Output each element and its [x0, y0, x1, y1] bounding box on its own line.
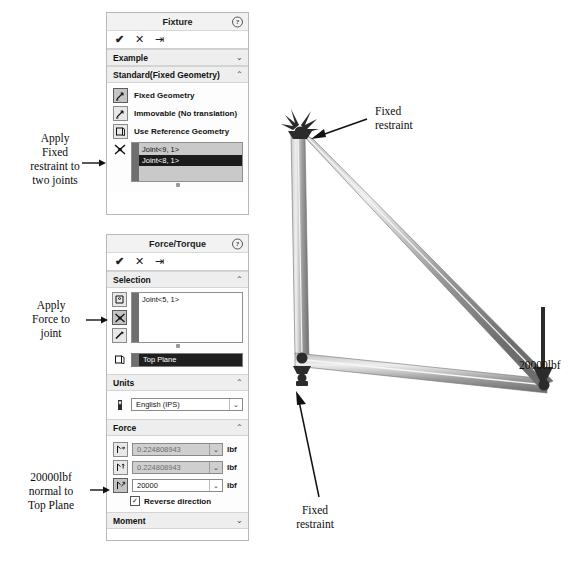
chevron-down-icon[interactable]: ⌄ — [229, 399, 242, 410]
cancel-button[interactable]: ✕ — [135, 34, 144, 45]
chevron-up-icon[interactable]: ⌃ — [236, 275, 243, 284]
ok-button[interactable]: ✔ — [115, 34, 124, 45]
arrow-to-bottom-restraint — [292, 385, 328, 500]
reverse-direction-row[interactable]: ✓ Reverse direction — [130, 496, 243, 506]
chevron-up-icon[interactable]: ⌃ — [236, 70, 243, 79]
beam-bottom — [295, 353, 547, 393]
chevron-down-icon[interactable]: ⌄ — [209, 444, 222, 455]
pin-button[interactable]: ⇥ — [155, 34, 164, 45]
arrow-to-force-value — [90, 484, 112, 496]
moment-section-header[interactable]: Moment ⌄ — [107, 512, 248, 529]
option-reference-geometry-label: Use Reference Geometry — [134, 127, 229, 136]
fixture-panel-title: Fixture ? — [107, 13, 248, 31]
fixture-toolbar: ✔ ✕ ⇥ — [107, 31, 248, 49]
reference-geometry-icon[interactable] — [113, 124, 128, 139]
beam-select-icon[interactable] — [112, 328, 127, 343]
force-y-row: 0.224808943 ⌄ lbf — [113, 460, 243, 475]
fixture-entity-items: Joint<9, 1> Joint<8, 1> — [139, 143, 242, 181]
annotation-line: two joints — [14, 173, 96, 187]
annotation-line: Top Plane — [8, 498, 94, 512]
chevron-down-icon[interactable]: ⌄ — [236, 516, 243, 525]
selection-section-header[interactable]: Selection ⌃ — [107, 271, 248, 288]
force-x-row: 0.224808943 ⌄ lbf — [113, 442, 243, 457]
force-entity-list[interactable]: Joint<5, 1> — [131, 292, 243, 343]
list-item[interactable]: Joint<9, 1> — [139, 144, 242, 155]
standard-section-header[interactable]: Standard(Fixed Geometry) ⌃ — [107, 66, 248, 83]
units-section-header[interactable]: Units ⌃ — [107, 374, 248, 391]
annotation-apply-force: Apply Force to joint — [14, 298, 88, 340]
units-value: English (IPS) — [132, 399, 229, 410]
fixture-entity-list[interactable]: Joint<9, 1> Joint<8, 1> — [131, 142, 243, 182]
force-entity-items: Joint<5, 1> — [139, 293, 242, 342]
force-x-icon[interactable] — [113, 442, 128, 457]
force-toolbar: ✔ ✕ ⇥ — [107, 253, 248, 271]
immovable-icon[interactable] — [113, 106, 128, 121]
standard-section-label: Standard(Fixed Geometry) — [113, 70, 220, 80]
resize-grip[interactable] — [112, 182, 243, 188]
fixed-geometry-icon[interactable] — [113, 88, 128, 103]
option-fixed-geometry[interactable]: Fixed Geometry — [113, 88, 243, 103]
help-icon[interactable]: ? — [232, 16, 243, 27]
face-select-icon[interactable] — [112, 292, 127, 307]
chevron-down-icon[interactable]: ⌄ — [236, 53, 243, 62]
force-section-label: Force — [113, 423, 136, 433]
selection-section-label: Selection — [113, 275, 151, 285]
reference-plane-icon[interactable] — [113, 352, 127, 367]
reverse-direction-label: Reverse direction — [144, 497, 211, 506]
resize-grip[interactable] — [112, 343, 243, 349]
force-torque-panel: Force/Torque ? ✔ ✕ ⇥ Selection ⌃ — [106, 234, 249, 541]
reference-plane-value: Top Plane — [139, 355, 176, 364]
fixture-selection-area: Joint<9, 1> Joint<8, 1> — [112, 142, 243, 182]
annotation-line: 20000lbf — [8, 470, 94, 484]
ok-button[interactable]: ✔ — [115, 256, 124, 267]
force-section-header[interactable]: Force ⌃ — [107, 419, 248, 436]
chevron-up-icon[interactable]: ⌃ — [236, 423, 243, 432]
option-fixed-geometry-label: Fixed Geometry — [134, 91, 194, 100]
list-item[interactable]: Joint<5, 1> — [139, 294, 242, 305]
force-z-value: 20000 — [133, 480, 209, 491]
reference-plane-field[interactable]: Top Plane — [131, 353, 243, 367]
fixture-selection-icon-column — [112, 142, 127, 182]
force-z-icon[interactable] — [113, 478, 128, 493]
vertex-joint-icon[interactable] — [112, 142, 127, 157]
force-z-field[interactable]: 20000 ⌄ — [132, 479, 223, 492]
chevron-down-icon[interactable]: ⌄ — [209, 480, 222, 491]
fixture-panel: Fixture ? ✔ ✕ ⇥ Example ⌄ Standard(Fixed… — [106, 12, 249, 215]
cancel-button[interactable]: ✕ — [135, 256, 144, 267]
units-row: English (IPS) ⌄ — [113, 397, 243, 412]
force-y-field[interactable]: 0.224808943 ⌄ — [132, 461, 223, 474]
arrow-to-fixture-panel — [82, 157, 108, 169]
reverse-direction-checkbox[interactable]: ✓ — [130, 496, 140, 506]
force-y-icon[interactable] — [113, 460, 128, 475]
beam-vertical — [291, 131, 309, 361]
force-x-field[interactable]: 0.224808943 ⌄ — [132, 443, 223, 456]
chevron-down-icon[interactable]: ⌄ — [209, 462, 222, 473]
force-z-unit: lbf — [227, 481, 243, 490]
joint-select-icon[interactable] — [112, 310, 127, 325]
beam-diagonal — [299, 131, 553, 387]
option-reference-geometry[interactable]: Use Reference Geometry — [113, 124, 243, 139]
force-selection-icon-column — [112, 292, 127, 343]
force-section-body: 0.224808943 ⌄ lbf 0.224808943 ⌄ lbf 2000… — [107, 436, 248, 512]
annotation-line: Fixed — [375, 104, 453, 118]
force-x-unit: lbf — [227, 445, 243, 454]
selection-section-body: Joint<5, 1> Top Plane — [107, 288, 248, 374]
annotation-line: Apply — [14, 298, 88, 312]
force-title-text: Force/Torque — [149, 239, 206, 249]
pin-button[interactable]: ⇥ — [155, 256, 164, 267]
option-immovable[interactable]: Immovable (No translation) — [113, 106, 243, 121]
example-section-header[interactable]: Example ⌄ — [107, 49, 248, 66]
moment-section-label: Moment — [113, 516, 146, 526]
help-icon[interactable]: ? — [232, 238, 243, 249]
list-gutter — [132, 293, 139, 342]
force-z-row: 20000 ⌄ lbf — [113, 478, 243, 493]
arrow-to-top-restraint — [305, 115, 375, 143]
annotation-line: restraint — [375, 118, 453, 132]
units-select[interactable]: English (IPS) ⌄ — [131, 398, 243, 411]
chevron-up-icon[interactable]: ⌃ — [236, 378, 243, 387]
annotation-line: Apply — [14, 131, 96, 145]
list-item[interactable]: Joint<8, 1> — [139, 155, 242, 166]
option-immovable-label: Immovable (No translation) — [134, 109, 237, 118]
standard-section-body: Fixed Geometry Immovable (No translation… — [107, 83, 248, 192]
force-y-unit: lbf — [227, 463, 243, 472]
